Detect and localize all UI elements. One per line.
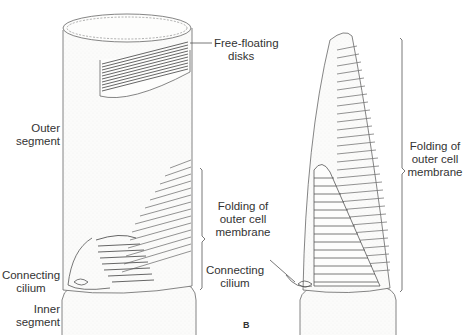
label-rod-connecting-cilium: Connecting cilium <box>0 269 62 295</box>
label-cone-folding-membrane: Folding of outer cell membrane <box>405 140 465 179</box>
cone-inner-segment <box>300 286 396 335</box>
label-outer-segment: Outer segment <box>2 122 60 148</box>
label-free-floating-disks: Free-floating disks <box>214 37 279 63</box>
label-rod-folding-membrane: Folding of outer cell membrane <box>208 200 278 239</box>
rod-cell <box>62 14 196 335</box>
panel-letter: B <box>243 320 250 330</box>
rod-top-cap <box>63 14 191 42</box>
cone-cell <box>286 33 396 335</box>
label-cone-connecting-cilium: Connecting cilium <box>200 264 270 290</box>
label-inner-segment: Inner segment <box>2 303 60 329</box>
